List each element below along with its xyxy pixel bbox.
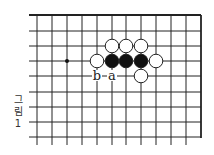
point-label-b: b xyxy=(93,68,101,83)
caption-char: 림 xyxy=(10,106,26,118)
white-stone xyxy=(105,39,119,53)
point-label-a: a xyxy=(108,68,116,83)
white-stone xyxy=(134,39,148,53)
black-stone xyxy=(134,54,148,68)
caption-char: 1 xyxy=(10,118,26,130)
black-stone xyxy=(105,54,119,68)
go-board-diagram: ba xyxy=(0,0,214,155)
star-points xyxy=(65,59,69,63)
star-point xyxy=(65,59,69,63)
white-stone xyxy=(149,54,163,68)
white-stone xyxy=(134,69,148,83)
figure-caption: 그 림 1 xyxy=(10,94,26,130)
caption-char: 그 xyxy=(10,94,26,106)
white-stone xyxy=(119,39,133,53)
white-stone xyxy=(90,54,104,68)
black-stone xyxy=(119,54,133,68)
